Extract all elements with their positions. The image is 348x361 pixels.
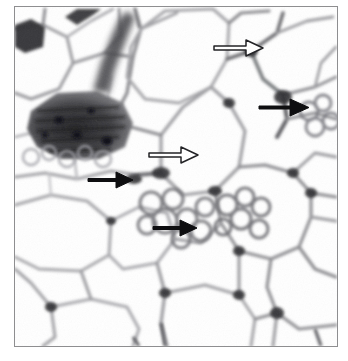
micrograph-image <box>15 7 337 346</box>
figure-root: Histological section of adipose tissue h… <box>0 0 348 361</box>
adipocyte-note: large unilocular white adipocytes separa… <box>0 0 1 1</box>
multilocular-note: clusters of small multilocular cells in … <box>0 0 1 1</box>
figure-title: Histological section of adipose tissue <box>0 0 1 1</box>
micrograph-frame <box>14 6 338 347</box>
figure-stain: hematoxylin and eosin <box>0 0 1 1</box>
dense-region-label: densely stained multilocular / vascular … <box>0 0 1 1</box>
